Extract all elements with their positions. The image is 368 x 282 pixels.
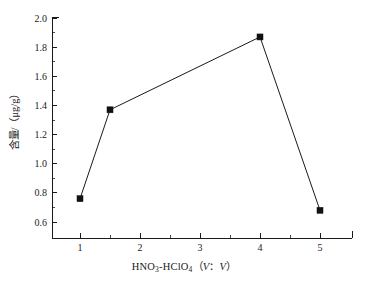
data-point-marker	[77, 196, 83, 202]
x-tick-label: 1	[78, 242, 83, 253]
y-tick-label: 1.6	[35, 71, 48, 82]
ticks-group	[52, 18, 320, 238]
data-point-marker	[107, 107, 113, 113]
data-point-marker	[257, 34, 263, 40]
y-axis-title: 含量/（μg/g）	[6, 60, 21, 180]
x-axis-title-text: HNO3-HClO4（V：V）	[132, 261, 237, 272]
y-tick-label: 1.0	[35, 158, 48, 169]
data-series-group	[80, 37, 320, 210]
x-axis-title: HNO3-HClO4（V：V）	[0, 258, 368, 273]
data-markers-group	[77, 34, 323, 213]
y-axis-title-text: 含量/（μg/g）	[9, 89, 20, 151]
tick-labels-group: 0.60.81.01.21.41.61.82.012345	[35, 13, 323, 254]
y-tick-label: 0.8	[35, 187, 48, 198]
line-chart-plot: 0.60.81.01.21.41.61.82.012345	[0, 0, 368, 282]
chart-container: 0.60.81.01.21.41.61.82.012345 HNO3-HClO4…	[0, 0, 368, 282]
x-tick-label: 5	[318, 242, 323, 253]
data-series-line	[80, 37, 320, 210]
y-tick-label: 1.8	[35, 42, 48, 53]
x-tick-label: 4	[258, 242, 263, 253]
x-tick-label: 3	[198, 242, 203, 253]
y-tick-label: 1.4	[35, 100, 48, 111]
axes-group	[52, 17, 352, 238]
y-tick-label: 0.6	[35, 217, 48, 228]
data-point-marker	[317, 207, 323, 213]
y-tick-label: 2.0	[35, 13, 48, 24]
x-tick-label: 2	[138, 242, 143, 253]
y-tick-label: 1.2	[35, 129, 48, 140]
